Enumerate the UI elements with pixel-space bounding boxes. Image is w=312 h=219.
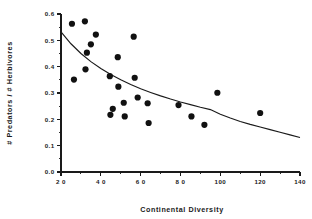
data-point [131, 34, 137, 40]
y-tick-label: 0.1 [45, 142, 55, 149]
data-point [93, 31, 99, 37]
data-point [145, 100, 151, 106]
data-points [69, 18, 263, 128]
y-tick-label: 0.5 [45, 37, 55, 44]
y-tick-label: 0.4 [45, 63, 55, 70]
data-point [122, 113, 128, 119]
data-point [132, 75, 138, 81]
data-point [135, 94, 141, 100]
fit-curve-path [61, 32, 300, 138]
data-point [121, 100, 127, 106]
fit-curve [61, 32, 300, 138]
data-point [214, 90, 220, 96]
data-point [115, 54, 121, 60]
y-axis-title: # Predators / # Herbivores [5, 41, 14, 144]
data-point [107, 73, 113, 79]
scatter-plot: 2 04 06 08 0100120140 0.00.10.20.30.40.5… [0, 0, 312, 219]
y-axis-tick-labels: 0.00.10.20.30.40.50.6 [45, 10, 55, 175]
x-tick-label: 8 0 [176, 178, 186, 185]
data-point [84, 50, 90, 56]
data-point [110, 106, 116, 112]
data-point [188, 113, 194, 119]
data-point [107, 112, 113, 118]
data-point [175, 102, 181, 108]
data-point [146, 120, 152, 126]
x-tick-label: 6 0 [136, 178, 146, 185]
x-tick-label: 4 0 [96, 178, 106, 185]
x-tick-label: 2 0 [56, 178, 66, 185]
y-tick-label: 0.2 [45, 116, 55, 123]
data-point [82, 18, 88, 24]
axis-ticks [57, 14, 300, 176]
y-tick-label: 0.6 [45, 10, 55, 17]
axes [61, 14, 300, 172]
x-axis-tick-labels: 2 04 06 08 0100120140 [56, 178, 306, 185]
data-point [115, 84, 121, 90]
data-point [82, 66, 88, 72]
x-tick-label: 100 [215, 178, 227, 185]
y-tick-label: 0.3 [45, 89, 55, 96]
x-axis-title: Continental Diversity [140, 205, 223, 214]
data-point [257, 110, 263, 116]
y-tick-label: 0.0 [45, 168, 55, 175]
data-point [69, 21, 75, 27]
data-point [71, 76, 77, 82]
x-tick-label: 120 [254, 178, 266, 185]
data-point [201, 122, 207, 128]
x-tick-label: 140 [294, 178, 306, 185]
data-point [88, 41, 94, 47]
chart-figure: 2 04 06 08 0100120140 0.00.10.20.30.40.5… [0, 0, 312, 219]
